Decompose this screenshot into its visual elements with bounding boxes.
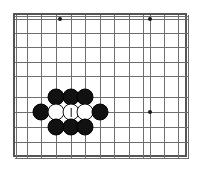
grid-line-vertical-2: [41, 15, 42, 159]
grid-line-vertical-1: [27, 15, 28, 159]
grid-line-vertical-4: [71, 15, 72, 159]
grid-line-vertical-7: [114, 15, 115, 159]
black-stone: [77, 119, 94, 136]
grid-line-vertical-9: [143, 15, 144, 159]
hoshi-top-left-icon: [58, 17, 62, 21]
black-stone: [92, 104, 109, 121]
grid-line-horizontal-2: [15, 33, 189, 34]
grid-line-horizontal-8: [15, 127, 189, 128]
grid-line-vertical-3: [56, 15, 57, 159]
grid-line-vertical-5: [85, 15, 86, 159]
grid-line-vertical-11: [164, 15, 165, 159]
grid-line-horizontal-4: [15, 62, 189, 63]
grid-line-horizontal-1: [15, 19, 189, 20]
board-frame: [13, 13, 187, 157]
grid-line-horizontal-10: [15, 158, 189, 159]
grid-line-vertical-6: [100, 15, 101, 159]
grid-line-vertical-10: [150, 15, 151, 159]
grid-line-horizontal-9: [15, 142, 189, 143]
grid-line-horizontal-3: [15, 47, 189, 48]
grid-line-horizontal-5: [15, 76, 189, 77]
hoshi-middle-right-icon: [148, 110, 152, 114]
grid-line-horizontal-0: [15, 16, 189, 17]
grid-line-horizontal-6: [15, 97, 189, 98]
grid-line-vertical-0: [16, 15, 17, 159]
grid-line-vertical-12: [178, 15, 179, 159]
grid-line-vertical-8: [129, 15, 130, 159]
stone-move-mark-icon: [70, 108, 72, 117]
go-board-diagram: [0, 0, 199, 170]
grid-line-vertical-13: [188, 15, 189, 159]
hoshi-top-right-icon: [148, 17, 152, 21]
